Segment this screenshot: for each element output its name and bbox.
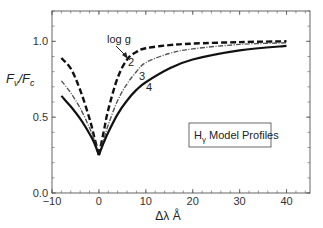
curve-label-3: 3	[139, 70, 145, 82]
chart: −100102030400.00.51.0 Fν/Fc Δλ Å log g 2…	[0, 0, 323, 228]
y-tick-label: 0.0	[33, 187, 48, 199]
y-tick-label: 1.0	[33, 35, 48, 47]
x-tick-label: 40	[280, 195, 292, 207]
plot-frame	[52, 11, 310, 193]
curve-label-4: 4	[146, 81, 152, 93]
logg-annotation: log g	[107, 33, 131, 45]
legend-box: Hγ Model Profiles	[189, 123, 279, 147]
x-tick-label: 20	[187, 195, 199, 207]
x-tick-label: 10	[140, 195, 152, 207]
x-tick-label: 0	[96, 195, 102, 207]
arrow-icon	[116, 46, 128, 59]
x-axis-label: Δλ Å	[155, 208, 180, 223]
y-axis-label: Fν/Fc	[6, 71, 35, 88]
curve-label-2: 2	[128, 56, 134, 68]
y-tick-label: 0.5	[33, 111, 48, 123]
x-tick-label: 30	[234, 195, 246, 207]
